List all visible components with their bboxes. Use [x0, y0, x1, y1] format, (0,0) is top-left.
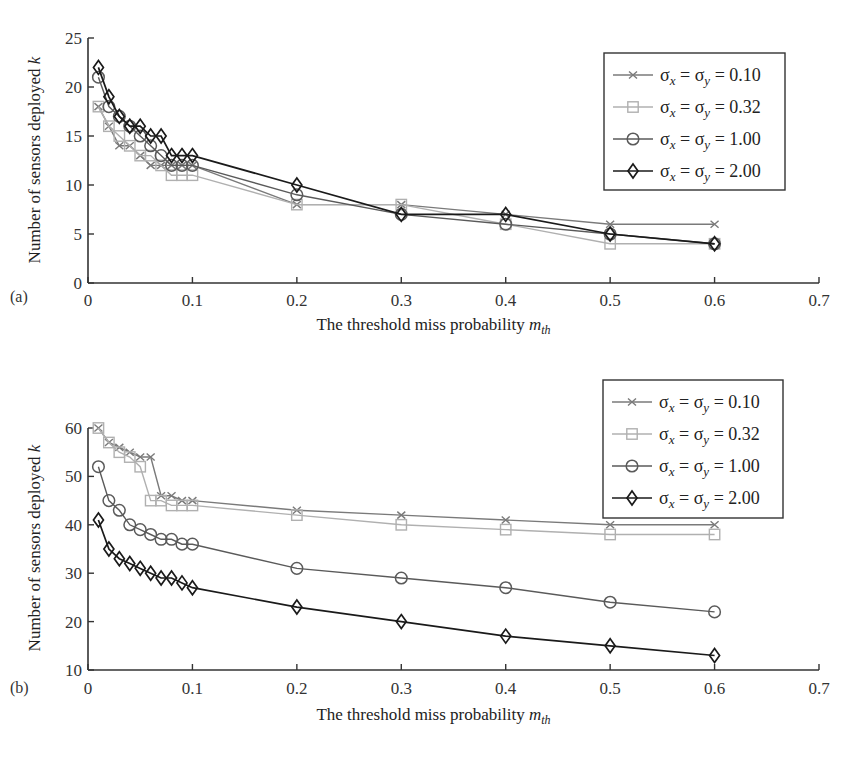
y-tick-label: 25	[65, 29, 82, 48]
legend-label: σx = σy = 2.00	[659, 488, 760, 511]
square-marker-icon	[187, 500, 197, 510]
legend-label: σx = σy = 0.32	[659, 424, 760, 447]
square-marker-icon	[605, 529, 615, 539]
y-tick-label: 10	[65, 176, 82, 195]
legend-label: σx = σy = 0.10	[660, 65, 761, 88]
chart-panel-b: 10203040506000.10.20.30.40.50.60.7Number…	[10, 380, 830, 727]
y-axis-title: Number of sensors deployed k	[25, 444, 44, 651]
square-marker-icon	[93, 101, 103, 111]
square-marker-icon	[166, 500, 176, 510]
x-tick-label: 0.6	[704, 291, 725, 310]
x-tick-label: 0	[84, 679, 93, 698]
series-diamond	[93, 513, 719, 663]
x-axis-title: The threshold miss probability mth	[316, 705, 550, 727]
x-tick-label: 0.3	[391, 679, 412, 698]
x-tick-label: 0.1	[182, 679, 203, 698]
legend-label: σx = σy = 0.10	[659, 392, 760, 415]
figure: 051015202500.10.20.30.40.50.60.7Number o…	[0, 0, 849, 758]
square-marker-icon	[125, 141, 135, 151]
square-marker-icon	[135, 462, 145, 472]
square-marker-icon	[177, 500, 187, 510]
legend: σx = σy = 0.10σx = σy = 0.32σx = σy = 1.…	[604, 53, 785, 190]
y-tick-label: 60	[65, 419, 82, 438]
x-tick-label: 0.2	[286, 679, 307, 698]
square-marker-icon	[628, 102, 638, 112]
square-marker-icon	[114, 447, 124, 457]
y-tick-label: 5	[74, 225, 83, 244]
x-tick-label: 0.7	[808, 679, 830, 698]
x-tick-label: 0.1	[182, 291, 203, 310]
panel-label: (b)	[10, 679, 29, 697]
diamond-marker-icon	[93, 513, 103, 527]
panel-label: (a)	[10, 288, 28, 306]
square-marker-icon	[627, 429, 637, 439]
legend-label: σx = σy = 0.32	[660, 97, 761, 120]
x-tick-label: 0.3	[391, 291, 412, 310]
square-marker-icon	[156, 495, 166, 505]
y-tick-label: 50	[65, 467, 82, 486]
y-tick-label: 15	[65, 127, 82, 146]
square-marker-icon	[145, 495, 155, 505]
y-tick-label: 20	[65, 78, 82, 97]
square-marker-icon	[396, 520, 406, 530]
square-marker-icon	[709, 529, 719, 539]
square-marker-icon	[292, 510, 302, 520]
legend-label: σx = σy = 2.00	[660, 161, 761, 184]
y-tick-label: 0	[74, 274, 83, 293]
legend-label: σx = σy = 1.00	[660, 129, 761, 152]
x-tick-label: 0.5	[600, 291, 621, 310]
legend-label: σx = σy = 1.00	[659, 456, 760, 479]
x-axis-title: The threshold miss probability mth	[316, 315, 550, 337]
square-marker-icon	[501, 524, 511, 534]
square-marker-icon	[93, 423, 103, 433]
x-tick-label: 0.6	[704, 679, 725, 698]
x-tick-label: 0	[84, 291, 93, 310]
square-marker-icon	[125, 452, 135, 462]
x-tick-label: 0.2	[286, 291, 307, 310]
square-marker-icon	[135, 150, 145, 160]
square-marker-icon	[104, 121, 114, 131]
y-tick-label: 10	[65, 661, 82, 680]
x-tick-label: 0.7	[808, 291, 830, 310]
square-marker-icon	[114, 131, 124, 141]
y-tick-label: 20	[65, 613, 82, 632]
x-tick-label: 0.4	[495, 291, 517, 310]
legend: σx = σy = 0.10σx = σy = 0.32σx = σy = 1.…	[603, 380, 783, 518]
y-tick-label: 40	[65, 516, 82, 535]
x-tick-label: 0.5	[600, 679, 621, 698]
y-axis-title: Number of sensors deployed k	[25, 56, 44, 263]
square-marker-icon	[104, 437, 114, 447]
y-tick-label: 30	[65, 564, 82, 583]
chart-panel-a: 051015202500.10.20.30.40.50.60.7Number o…	[10, 29, 830, 337]
x-tick-label: 0.4	[495, 679, 517, 698]
